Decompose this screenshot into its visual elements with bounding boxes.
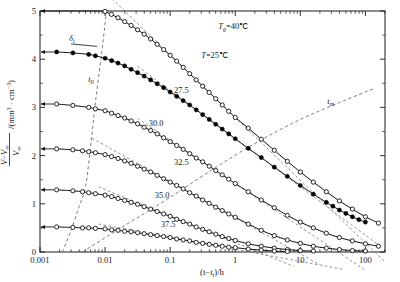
data-point — [55, 102, 59, 106]
data-point — [129, 200, 133, 204]
data-point — [129, 23, 133, 27]
y-tick-label: 3 — [32, 102, 36, 112]
x-tick-label: 10 — [296, 255, 305, 265]
data-point — [324, 190, 328, 194]
y-tick-labels: 012345 — [32, 6, 37, 257]
data-point — [80, 190, 84, 194]
x-tick-label: 0.01 — [98, 255, 113, 265]
y-axis-title: V−V∞ V∞ /(mm3 · cm−3) — [0, 80, 22, 166]
data-point — [298, 170, 302, 174]
data-point — [123, 116, 127, 120]
curve-27.5 — [57, 52, 366, 222]
data-markers — [55, 9, 381, 253]
data-point — [194, 194, 198, 198]
data-point — [220, 244, 224, 248]
data-point — [285, 174, 289, 178]
data-point — [87, 191, 91, 195]
x-tick-label: 0.1 — [165, 255, 176, 265]
plateau-arrow-head — [41, 225, 45, 229]
data-point — [214, 243, 218, 247]
data-point — [71, 225, 75, 229]
data-point — [155, 173, 159, 177]
data-point — [55, 188, 59, 192]
data-point — [298, 183, 302, 187]
plateau-arrow-head — [41, 9, 45, 13]
data-point — [246, 222, 250, 226]
data-point — [80, 149, 84, 153]
data-point — [116, 156, 120, 160]
x-tick-label: 100 — [359, 255, 372, 265]
data-point — [357, 218, 361, 222]
axis-ticks — [40, 11, 385, 252]
data-point — [285, 249, 289, 253]
data-point — [175, 143, 179, 147]
data-point — [311, 180, 315, 184]
data-point — [168, 140, 172, 144]
data-point — [129, 67, 133, 71]
data-point — [168, 235, 172, 239]
data-point — [311, 226, 315, 230]
data-point — [311, 244, 315, 248]
data-point — [93, 54, 97, 58]
data-point — [363, 242, 367, 246]
label-25: T=25℃ — [201, 51, 228, 60]
y-tick-label: 4 — [32, 54, 37, 64]
data-point — [136, 164, 140, 168]
data-point — [175, 237, 179, 241]
data-point — [110, 228, 114, 232]
data-point — [337, 235, 341, 239]
data-point — [207, 230, 211, 234]
data-point — [201, 227, 205, 231]
label-375: 37.5 — [161, 220, 176, 229]
data-point — [116, 16, 120, 20]
plateau-arrow-head — [41, 102, 45, 106]
data-point — [194, 108, 198, 112]
data-point — [376, 221, 380, 225]
data-point — [233, 238, 237, 242]
data-point — [201, 113, 205, 117]
data-point — [337, 247, 341, 251]
data-point — [207, 117, 211, 121]
data-point — [214, 205, 218, 209]
y-tick-label: 1 — [32, 199, 36, 209]
data-point — [201, 160, 205, 164]
data-point — [220, 103, 224, 107]
data-point — [181, 65, 185, 69]
tm-label: tm — [327, 97, 334, 107]
data-point — [350, 248, 354, 252]
data-point — [181, 238, 185, 242]
data-point — [259, 137, 263, 141]
data-point — [55, 225, 59, 229]
data-point — [214, 97, 218, 101]
t0-locus-curve — [62, 11, 106, 252]
data-point — [337, 208, 341, 212]
data-point — [162, 86, 166, 90]
data-point — [71, 51, 75, 55]
data-point — [350, 215, 354, 219]
label-275: 27.5 — [174, 86, 189, 95]
data-point — [376, 244, 380, 248]
data-point — [103, 193, 107, 197]
data-point — [227, 132, 231, 136]
data-point — [162, 177, 166, 181]
data-point — [136, 231, 140, 235]
ylabel-denominator: V∞ — [11, 146, 22, 156]
data-point — [168, 214, 172, 218]
t0-label: t0 — [88, 75, 94, 85]
data-point — [162, 212, 166, 216]
data-point — [136, 71, 140, 75]
data-point — [188, 191, 192, 195]
data-point — [207, 201, 211, 205]
data-point — [71, 103, 75, 107]
data-point — [142, 167, 146, 171]
data-point — [201, 241, 205, 245]
data-curves — [57, 11, 379, 251]
data-point — [207, 242, 211, 246]
data-point — [93, 226, 97, 230]
data-point — [350, 239, 354, 243]
data-point — [181, 220, 185, 224]
data-point — [311, 249, 315, 253]
data-point — [123, 229, 127, 233]
data-point — [214, 168, 218, 172]
data-point — [246, 190, 250, 194]
